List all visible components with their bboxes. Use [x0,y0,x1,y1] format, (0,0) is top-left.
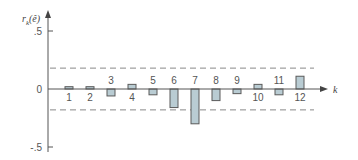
y-axis-arrow-icon [45,10,51,18]
category-label: 7 [192,75,198,86]
x-axis-title: k [333,84,338,95]
x-axis-arrow-icon [320,86,328,92]
bar-k3 [107,89,115,96]
bar-k12 [296,76,304,89]
bar-k5 [149,89,157,95]
category-label: 6 [171,75,177,86]
category-label: 5 [150,75,156,86]
category-label: 10 [252,92,264,103]
bar-k4 [128,84,136,89]
bar-k11 [275,89,283,95]
y-tick-label: 0 [36,84,42,95]
autocorrelation-chart: rk(ê) .50-.5 k 123456789101112 [0,0,358,160]
category-label: 1 [66,92,72,103]
category-label: 9 [234,75,240,86]
category-label: 3 [108,75,114,86]
bar-k8 [212,89,220,101]
y-tick-label: -.5 [30,142,42,153]
bar-k9 [233,89,241,94]
category-label: 12 [294,92,306,103]
y-tick-label: .5 [34,26,43,37]
category-label: 4 [129,92,135,103]
bar-k7 [191,89,199,124]
y-axis-title: rk(ê) [22,13,41,27]
category-label: 11 [274,75,285,86]
bar-k10 [254,84,262,89]
category-label: 8 [213,75,219,86]
category-label: 2 [87,92,93,103]
bar-k6 [170,89,178,108]
bars [65,76,304,124]
